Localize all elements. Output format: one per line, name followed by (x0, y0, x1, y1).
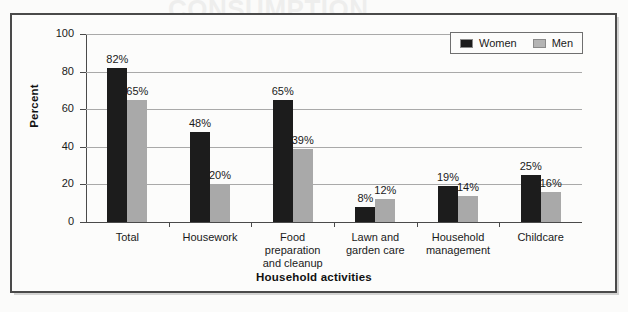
bar-value-label: 25% (514, 160, 548, 172)
legend-entry-women[interactable]: Women (460, 37, 517, 49)
gridline-60 (86, 109, 582, 110)
gridline-80 (86, 72, 582, 73)
category-label-line: management (403, 244, 513, 257)
bar-group: 48%20% (190, 34, 230, 222)
x-group-separator (417, 222, 418, 227)
legend-label: Men (552, 37, 573, 49)
bar-value-label: 12% (368, 184, 402, 196)
x-group-separator (334, 222, 335, 227)
legend-swatch-men (533, 39, 546, 48)
bar-value-label: 48% (183, 117, 217, 129)
y-tick-label-0: 0 (40, 215, 74, 227)
bar-men[interactable]: 39% (293, 149, 313, 222)
bar-women[interactable]: 65% (273, 100, 293, 222)
category-label-line: Childcare (486, 231, 596, 244)
y-tick-label-80: 80 (40, 65, 74, 77)
bar-value-label: 39% (286, 134, 320, 146)
bar-group: 65%39% (273, 34, 313, 222)
gridline-40 (86, 147, 582, 148)
y-axis-title: Percent (28, 61, 40, 151)
category-label-line: and cleanup (238, 257, 348, 270)
bar-men[interactable]: 12% (375, 199, 395, 222)
x-group-separator (251, 222, 252, 227)
bar-group: 8%12% (355, 34, 395, 222)
y-tick-label-40: 40 (40, 140, 74, 152)
bar-group: 19%14% (438, 34, 478, 222)
bar-value-label: 65% (266, 85, 300, 97)
x-axis-title: Household activities (0, 271, 628, 283)
bar-men[interactable]: 14% (458, 196, 478, 222)
chart-legend: WomenMen (450, 32, 583, 54)
bar-men[interactable]: 65% (127, 100, 147, 222)
bar-men[interactable]: 20% (210, 184, 230, 222)
legend-entry-men[interactable]: Men (533, 37, 573, 49)
bar-group: 82%65% (107, 34, 147, 222)
y-tick-label-20: 20 (40, 177, 74, 189)
bar-value-label: 14% (451, 181, 485, 193)
category-label[interactable]: Childcare (486, 231, 596, 244)
bar-value-label: 82% (100, 53, 134, 65)
legend-swatch-women (460, 39, 473, 48)
bar-group: 25%16% (521, 34, 561, 222)
gridline-20 (86, 184, 582, 185)
bar-men[interactable]: 16% (541, 192, 561, 222)
legend-label: Women (479, 37, 517, 49)
x-group-separator (499, 222, 500, 227)
x-group-separator (169, 222, 170, 227)
plot-area: 82%65%48%20%65%39%8%12%19%14%25%16% (86, 34, 582, 222)
bar-value-label: 16% (534, 177, 568, 189)
y-tick-label-100: 100 (40, 27, 74, 39)
bar-women[interactable]: 8% (355, 207, 375, 222)
bar-value-label: 65% (120, 85, 154, 97)
y-tick-label-60: 60 (40, 102, 74, 114)
bar-value-label: 20% (203, 169, 237, 181)
